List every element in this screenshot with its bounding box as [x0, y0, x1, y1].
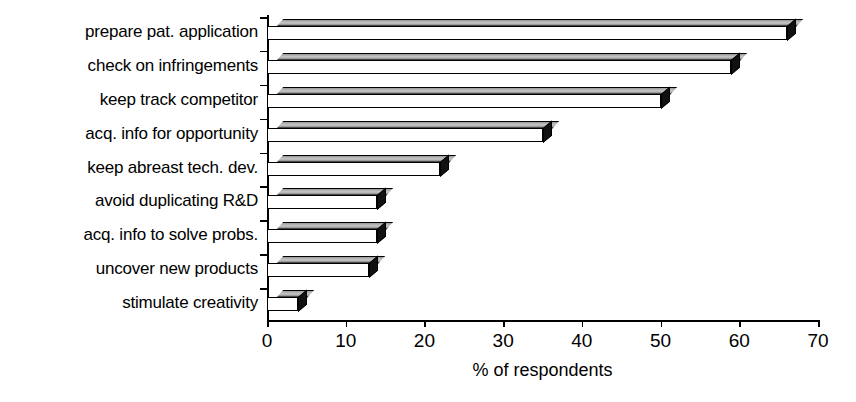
bar-top-face [276, 121, 559, 129]
x-axis-tick [739, 320, 741, 327]
x-axis-tick-label: 10 [316, 330, 376, 351]
plot-area [267, 15, 827, 320]
bar-top-face [276, 222, 393, 230]
x-axis-tick-label: 0 [237, 330, 297, 351]
category-label: acq. info for opportunity [0, 125, 258, 142]
y-axis-tick [260, 51, 267, 53]
x-axis-tick-label: 50 [631, 330, 691, 351]
x-axis-tick [661, 320, 663, 327]
y-axis-tick [260, 153, 267, 155]
x-axis-tick [267, 320, 269, 327]
x-axis-tick-label: 70 [788, 330, 848, 351]
x-axis-tick-label: 30 [473, 330, 533, 351]
category-label: check on infringements [0, 57, 258, 74]
bar-chart: prepare pat. applicationcheck on infring… [0, 0, 856, 402]
y-axis-tick [260, 254, 267, 256]
y-axis-tick [260, 288, 267, 290]
bar [267, 155, 449, 181]
x-axis-tick [503, 320, 505, 327]
x-axis-tick [582, 320, 584, 327]
bar [267, 290, 307, 316]
x-axis-title: % of respondents [267, 360, 818, 380]
bar [267, 188, 386, 214]
bar-top-face [276, 53, 748, 61]
bar-front-face [267, 229, 377, 243]
y-axis-tick [260, 186, 267, 188]
category-label: prepare pat. application [0, 23, 258, 40]
bar-front-face [267, 60, 731, 74]
bar-front-face [267, 128, 543, 142]
y-axis-tick [260, 220, 267, 222]
bar-top-face [276, 188, 393, 196]
bar [267, 53, 740, 79]
category-label: keep track competitor [0, 91, 258, 108]
bar-front-face [267, 94, 661, 108]
category-label: acq. info to solve probs. [0, 226, 258, 243]
x-axis-tick-label: 20 [394, 330, 454, 351]
category-label: avoid duplicating R&D [0, 192, 258, 209]
bar-front-face [267, 297, 298, 311]
x-axis-tick [818, 320, 820, 327]
x-axis-line [267, 320, 818, 322]
bar [267, 121, 552, 147]
bar [267, 256, 378, 282]
category-label: stimulate creativity [0, 294, 258, 311]
bar-top-face [276, 290, 315, 298]
bar-top-face [276, 155, 456, 163]
bar-front-face [267, 26, 787, 40]
x-axis-tick-label: 60 [709, 330, 769, 351]
bar [267, 87, 670, 113]
bar [267, 19, 796, 45]
category-label: uncover new products [0, 260, 258, 277]
bar [267, 222, 386, 248]
category-axis: prepare pat. applicationcheck on infring… [0, 15, 258, 320]
y-axis-tick [260, 119, 267, 121]
bar-top-face [276, 87, 677, 95]
x-axis-tick [346, 320, 348, 327]
y-axis-tick [260, 17, 267, 19]
bar-front-face [267, 263, 369, 277]
category-label: keep abreast tech. dev. [0, 159, 258, 176]
x-axis-tick-label: 40 [552, 330, 612, 351]
bar-top-face [276, 19, 803, 27]
y-axis-tick [260, 85, 267, 87]
bar-front-face [267, 195, 377, 209]
x-axis-tick [424, 320, 426, 327]
bar-front-face [267, 162, 440, 176]
